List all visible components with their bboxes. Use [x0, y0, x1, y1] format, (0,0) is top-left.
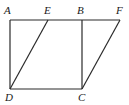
label-F: F [115, 4, 123, 16]
vertex-labels: A E B F D C [3, 4, 123, 103]
label-A: A [3, 4, 11, 16]
label-D: D [4, 91, 13, 103]
segment-DE [10, 20, 48, 89]
segment-CF [82, 20, 120, 89]
geometry-diagram: A E B F D C [0, 0, 129, 105]
edges [10, 20, 120, 89]
label-C: C [78, 91, 86, 103]
label-B: B [77, 4, 84, 16]
label-E: E [43, 4, 51, 16]
